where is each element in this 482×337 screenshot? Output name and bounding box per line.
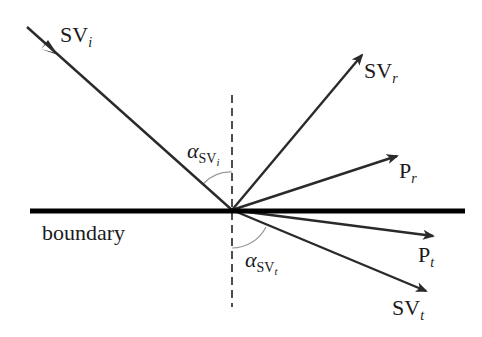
diagram-canvas: SVi SVr Pr Pt SVt boundary αSVi αSVt xyxy=(0,0,482,337)
transmission-angle-arc xyxy=(232,227,266,248)
reflected-sv-label: SVr xyxy=(364,58,398,86)
reflected-p-label: Pr xyxy=(399,158,417,186)
reflected-sv-ray xyxy=(232,55,362,210)
transmission-angle-label: αSVt xyxy=(245,247,278,277)
reflected-p-ray xyxy=(232,156,397,210)
transmitted-p-label: Pt xyxy=(418,242,435,270)
boundary-label: boundary xyxy=(42,220,125,245)
incident-sv-ray xyxy=(27,27,232,210)
incidence-angle-label: αSVi xyxy=(187,138,220,168)
transmitted-sv-label: SVt xyxy=(392,295,425,323)
incident-sv-label: SVi xyxy=(60,22,92,50)
incidence-angle-arc xyxy=(203,172,232,184)
